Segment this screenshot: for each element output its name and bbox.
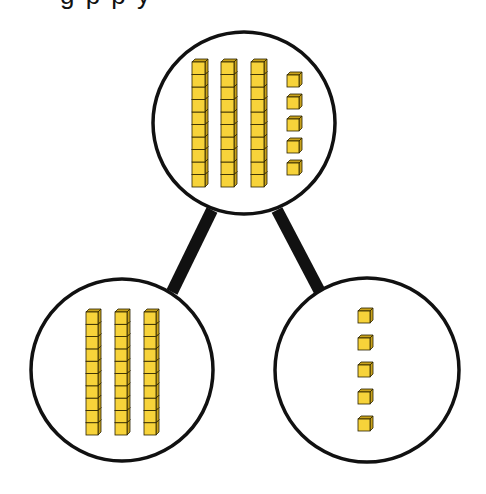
- cube-front: [251, 112, 264, 125]
- part-one-cube-1: [358, 308, 373, 323]
- cube-front: [86, 337, 98, 349]
- cube-side: [299, 72, 302, 87]
- cube-front: [221, 137, 234, 150]
- cube-front: [192, 137, 205, 150]
- cube-front: [115, 361, 127, 373]
- cube-front: [221, 112, 234, 125]
- cube-front: [144, 337, 156, 349]
- cube-front: [192, 62, 205, 75]
- cube-front: [192, 125, 205, 138]
- cube-front: [251, 62, 264, 75]
- cube-front: [192, 162, 205, 175]
- cube-front: [86, 374, 98, 386]
- whole-one-cube-2: [287, 94, 302, 109]
- cube-front: [287, 163, 299, 175]
- number-bond-diagram: g p p y Whole: 3 tens and 5 ones (35) Pa…: [0, 0, 486, 494]
- cube-front: [251, 100, 264, 113]
- cube-side: [234, 59, 237, 75]
- part-ten-rod-1: [86, 309, 101, 435]
- cube-front: [144, 312, 156, 324]
- whole-circle: [153, 32, 335, 214]
- whole-ten-rod-1: [192, 59, 208, 187]
- cube-front: [115, 337, 127, 349]
- connectors: [172, 210, 320, 292]
- part-one-cube-2: [358, 335, 373, 350]
- cube-front: [287, 75, 299, 87]
- cube-front: [144, 361, 156, 373]
- cube-side: [299, 138, 302, 153]
- cube-front: [86, 398, 98, 410]
- cube-front: [251, 75, 264, 88]
- cube-front: [86, 386, 98, 398]
- cube-front: [221, 175, 234, 188]
- cube-side: [205, 59, 208, 75]
- cube-side: [370, 362, 373, 377]
- cube-front: [192, 112, 205, 125]
- cube-side: [370, 335, 373, 350]
- cube-front: [115, 410, 127, 422]
- cube-front: [358, 392, 370, 404]
- cube-front: [144, 374, 156, 386]
- cube-front: [358, 419, 370, 431]
- cube-front: [221, 62, 234, 75]
- cube-front: [86, 349, 98, 361]
- cube-front: [221, 162, 234, 175]
- part-one-cube-4: [358, 389, 373, 404]
- cube-front: [251, 125, 264, 138]
- cube-side: [127, 309, 130, 324]
- cube-front: [86, 324, 98, 336]
- connector-part-tens: [172, 210, 212, 292]
- cube-front: [287, 141, 299, 153]
- cube-front: [251, 175, 264, 188]
- cube-front: [251, 137, 264, 150]
- cube-front: [115, 398, 127, 410]
- part-ten-rod-2: [115, 309, 130, 435]
- whole-one-cube-5: [287, 160, 302, 175]
- cube-front: [287, 119, 299, 131]
- whole-ten-rod-3: [251, 59, 267, 187]
- whole-one-cube-3: [287, 116, 302, 131]
- cube-front: [86, 361, 98, 373]
- cube-front: [221, 100, 234, 113]
- cube-front: [251, 162, 264, 175]
- cube-front: [115, 374, 127, 386]
- cube-front: [192, 87, 205, 100]
- cube-front: [144, 349, 156, 361]
- cube-front: [192, 100, 205, 113]
- cube-front: [144, 324, 156, 336]
- part-ten-rod-3: [144, 309, 159, 435]
- cube-front: [115, 312, 127, 324]
- cube-front: [86, 423, 98, 435]
- cube-front: [251, 150, 264, 163]
- cube-front: [251, 87, 264, 100]
- cube-front: [221, 150, 234, 163]
- diagram-canvas: [0, 0, 486, 494]
- cube-side: [370, 416, 373, 431]
- cube-front: [86, 410, 98, 422]
- whole-ten-rod-2: [221, 59, 237, 187]
- cube-side: [299, 160, 302, 175]
- cube-front: [358, 338, 370, 350]
- cube-front: [115, 324, 127, 336]
- cube-front: [192, 75, 205, 88]
- whole-one-cube-1: [287, 72, 302, 87]
- cube-front: [192, 150, 205, 163]
- cube-front: [144, 398, 156, 410]
- cube-front: [144, 410, 156, 422]
- part-one-cube-3: [358, 362, 373, 377]
- cube-front: [192, 175, 205, 188]
- cube-front: [221, 87, 234, 100]
- cube-front: [221, 75, 234, 88]
- cube-side: [299, 116, 302, 131]
- part-one-cube-5: [358, 416, 373, 431]
- cube-side: [98, 309, 101, 324]
- cube-front: [358, 365, 370, 377]
- cube-front: [358, 311, 370, 323]
- cube-front: [287, 97, 299, 109]
- cube-side: [370, 308, 373, 323]
- cube-side: [264, 59, 267, 75]
- cube-front: [115, 349, 127, 361]
- cube-front: [115, 423, 127, 435]
- cube-side: [370, 389, 373, 404]
- cube-side: [156, 309, 159, 324]
